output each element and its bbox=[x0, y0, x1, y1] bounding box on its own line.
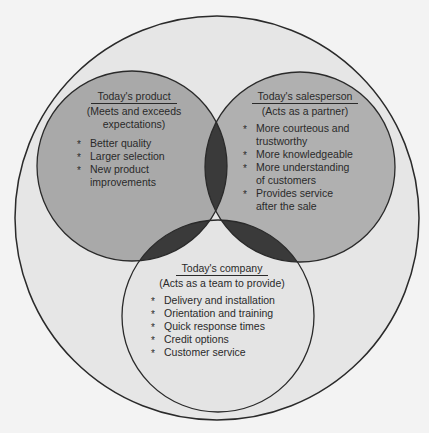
list-item: Orientation and training bbox=[148, 307, 296, 320]
salesperson-label: Today's salesperson (Acts as a partner) … bbox=[240, 90, 370, 213]
salesperson-subtitle: (Acts as a partner) bbox=[240, 105, 370, 118]
list-item: Credit options bbox=[148, 333, 296, 346]
list-item: Customer service bbox=[148, 346, 296, 359]
product-list: Better quality Larger selection New prod… bbox=[74, 137, 194, 189]
company-label: Today's company (Acts as a team to provi… bbox=[148, 262, 296, 359]
venn-diagram bbox=[0, 0, 429, 433]
product-label: Today's product (Meets and exceeds expec… bbox=[74, 90, 194, 189]
product-subtitle-line-1: (Meets and exceeds bbox=[74, 105, 194, 118]
salesperson-title: Today's salesperson bbox=[240, 90, 370, 103]
product-title: Today's product bbox=[74, 90, 194, 103]
list-item: New product improvements bbox=[74, 163, 170, 189]
salesperson-list: More courteous and trustworthy More know… bbox=[240, 122, 370, 213]
company-subtitle: (Acts as a team to provide) bbox=[148, 277, 296, 290]
company-title: Today's company bbox=[148, 262, 296, 275]
list-item: More understanding of customers bbox=[240, 161, 360, 187]
list-item: Larger selection bbox=[74, 150, 194, 163]
company-list: Delivery and installation Orientation an… bbox=[148, 294, 296, 359]
list-item: More courteous and trustworthy bbox=[240, 122, 360, 148]
list-item: Provides service after the sale bbox=[240, 187, 350, 213]
list-item: Better quality bbox=[74, 137, 194, 150]
list-item: Delivery and installation bbox=[148, 294, 296, 307]
product-subtitle-line-2: expectations) bbox=[74, 118, 194, 131]
list-item: More knowledgeable bbox=[240, 148, 370, 161]
list-item: Quick response times bbox=[148, 320, 296, 333]
